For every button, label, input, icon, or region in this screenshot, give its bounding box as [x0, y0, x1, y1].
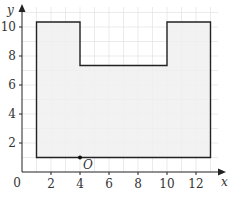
y-axis-label: y [6, 3, 14, 17]
x-tick-label: 8 [134, 177, 142, 191]
point-o-marker [78, 156, 82, 160]
x-axis-label: x [221, 175, 228, 189]
y-tick-label: 6 [8, 78, 16, 92]
x-tick-label: 6 [105, 177, 113, 191]
point-o-label: O [83, 158, 93, 172]
y-tick-label: 4 [8, 107, 16, 121]
x-tick-label: 2 [47, 177, 55, 191]
origin-label: 0 [13, 176, 21, 190]
y-tick-label: 10 [1, 20, 16, 34]
y-tick-label: 2 [8, 136, 16, 150]
x-tick-label: 10 [159, 177, 174, 191]
y-tick-label: 8 [8, 49, 16, 63]
x-tick-label: 4 [76, 177, 84, 191]
y-axis-arrow-icon [19, 4, 26, 12]
coordinate-diagram: 2 4 6 8 10 12 2 4 6 8 10 0 y x O [0, 0, 235, 198]
x-tick-label: 12 [188, 177, 203, 191]
